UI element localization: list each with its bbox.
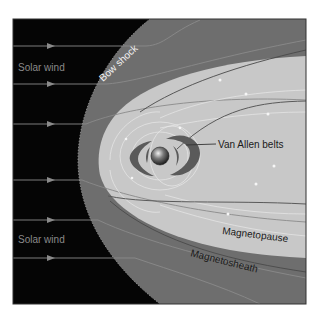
magnetosphere-diagram: Solar wind Solar wind Bow shock Van Alle… <box>0 0 320 318</box>
solar-wind-label-top: Solar wind <box>18 62 65 73</box>
solar-wind-label-bottom: Solar wind <box>18 234 65 245</box>
van-allen-belts-label: Van Allen belts <box>218 139 283 150</box>
earth-globe-icon <box>151 147 169 165</box>
